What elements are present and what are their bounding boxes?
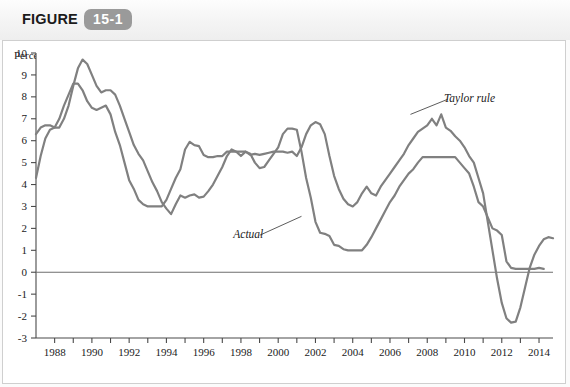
plot-wrapper: Percent Year 198819901992199419961998200… [0, 40, 570, 387]
figure-label: FIGURE [22, 11, 78, 27]
annotation-actual: Actual [232, 228, 263, 240]
y-tick-label: 10 [16, 47, 28, 59]
y-tick-label: 2 [22, 222, 28, 234]
y-tick-label: 0 [22, 266, 28, 278]
y-tick-label: -3 [18, 332, 28, 344]
y-tick-label: -1 [18, 288, 27, 300]
y-tick-label: -2 [18, 310, 27, 322]
y-tick-label: 4 [22, 178, 28, 190]
y-tick-label: 8 [22, 90, 28, 102]
annotation-taylor-rule: Taylor rule [444, 92, 495, 105]
y-tick-label: 5 [22, 156, 28, 168]
y-tick-label: 7 [22, 112, 28, 124]
y-tick-label: 1 [22, 244, 28, 256]
figure-container: FIGURE 15-1 Percent Year 198819901992199… [0, 0, 570, 387]
y-tick-label: 3 [22, 200, 28, 212]
line-chart-svg: 109876543210-1-2-3Taylor ruleActual [0, 40, 570, 387]
y-tick-label: 9 [22, 69, 28, 81]
figure-number-badge: 15-1 [84, 9, 132, 30]
y-tick-label: 6 [22, 134, 28, 146]
